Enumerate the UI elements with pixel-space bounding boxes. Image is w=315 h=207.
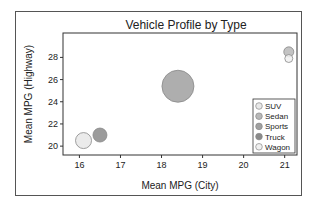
legend-label: Wagon (265, 143, 290, 152)
x-axis: 161718192021 (74, 155, 289, 170)
y-axis: 2022242628 (48, 52, 63, 151)
x-tick-label: 19 (198, 160, 208, 170)
legend-label: Truck (265, 133, 286, 142)
x-tick-label: 20 (239, 160, 249, 170)
legend-label: SUV (265, 102, 282, 111)
y-tick-label: 20 (48, 141, 58, 151)
legend-marker-icon (256, 133, 263, 140)
bubble-sports (162, 70, 194, 102)
chart-title: Vehicle Profile by Type (125, 18, 247, 32)
bubble-wagon (285, 55, 293, 63)
bubble-truck (93, 128, 107, 142)
bubble-chart: Vehicle Profile by Type 161718192021 202… (0, 0, 315, 207)
x-tick-label: 17 (115, 160, 125, 170)
x-tick-label: 16 (74, 160, 84, 170)
x-axis-label: Mean MPG (City) (141, 180, 218, 191)
x-tick-label: 18 (157, 160, 167, 170)
legend-label: Sports (265, 122, 288, 131)
legend: SUVSedanSportsTruckWagon (253, 99, 295, 153)
legend-marker-icon (256, 103, 263, 110)
y-tick-label: 26 (48, 75, 58, 85)
y-tick-label: 28 (48, 52, 58, 62)
y-tick-label: 24 (48, 97, 58, 107)
legend-marker-icon (256, 144, 263, 151)
bubble-suv (76, 133, 92, 149)
legend-marker-icon (256, 113, 263, 120)
y-axis-label: Mean MPG (Highway) (23, 45, 34, 143)
y-tick-label: 22 (48, 119, 58, 129)
legend-label: Sedan (265, 112, 288, 121)
legend-marker-icon (256, 123, 263, 130)
x-tick-label: 21 (280, 160, 290, 170)
